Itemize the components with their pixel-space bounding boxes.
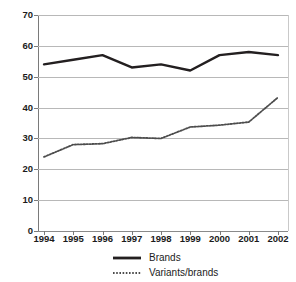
- legend-swatch-dotted-icon: [112, 268, 142, 278]
- x-tick-mark-2001: [249, 231, 250, 235]
- x-tick-mark-1998: [161, 231, 162, 235]
- gridline-0: [38, 231, 288, 232]
- x-tick-mark-1999: [190, 231, 191, 235]
- y-tick-label-60: 60: [3, 41, 33, 51]
- y-tick-label-30: 30: [3, 134, 33, 144]
- x-tick-label-1994: 1994: [33, 234, 54, 244]
- y-tick-mark-30: [34, 138, 38, 139]
- series-line-brands: [44, 52, 278, 71]
- plot-right-edge: [288, 15, 289, 231]
- plot-area: [38, 15, 288, 231]
- y-axis-labels: 010203040506070: [0, 15, 33, 231]
- x-tick-mark-2002: [278, 231, 279, 235]
- legend-item-variants: Variants/brands: [0, 265, 296, 280]
- legend-item-brands: Brands: [0, 250, 296, 265]
- series-layer: [38, 15, 288, 231]
- x-tick-label-1997: 1997: [121, 234, 142, 244]
- x-tick-mark-1996: [103, 231, 104, 235]
- x-tick-label-2001: 2001: [238, 234, 259, 244]
- y-tick-mark-10: [34, 200, 38, 201]
- y-tick-mark-0: [34, 231, 38, 232]
- y-tick-label-20: 20: [3, 165, 33, 175]
- y-tick-mark-20: [34, 169, 38, 170]
- chart-legend: Brands Variants/brands: [0, 250, 296, 280]
- y-tick-label-70: 70: [3, 10, 33, 20]
- x-tick-label-1999: 1999: [180, 234, 201, 244]
- legend-swatch-solid-icon: [112, 253, 142, 263]
- series-line-variants: [44, 97, 278, 157]
- x-tick-label-2000: 2000: [209, 234, 230, 244]
- x-tick-mark-1997: [132, 231, 133, 235]
- x-tick-mark-2000: [220, 231, 221, 235]
- x-axis-labels: 199419951996199719981999200020012002: [38, 234, 288, 250]
- y-tick-label-0: 0: [3, 226, 33, 236]
- y-tick-mark-50: [34, 77, 38, 78]
- x-tick-mark-1995: [73, 231, 74, 235]
- line-chart: 010203040506070 199419951996199719981999…: [0, 0, 296, 282]
- y-tick-mark-60: [34, 46, 38, 47]
- x-tick-label-1998: 1998: [150, 234, 171, 244]
- x-tick-label-1996: 1996: [92, 234, 113, 244]
- y-tick-mark-70: [34, 15, 38, 16]
- x-tick-label-1995: 1995: [63, 234, 84, 244]
- legend-label-variants: Variants/brands: [149, 268, 218, 278]
- x-tick-label-2002: 2002: [267, 234, 288, 244]
- y-tick-label-50: 50: [3, 72, 33, 82]
- x-tick-mark-1994: [44, 231, 45, 235]
- y-tick-label-10: 10: [3, 195, 33, 205]
- y-tick-label-40: 40: [3, 103, 33, 113]
- y-tick-mark-40: [34, 108, 38, 109]
- legend-label-brands: Brands: [149, 253, 181, 263]
